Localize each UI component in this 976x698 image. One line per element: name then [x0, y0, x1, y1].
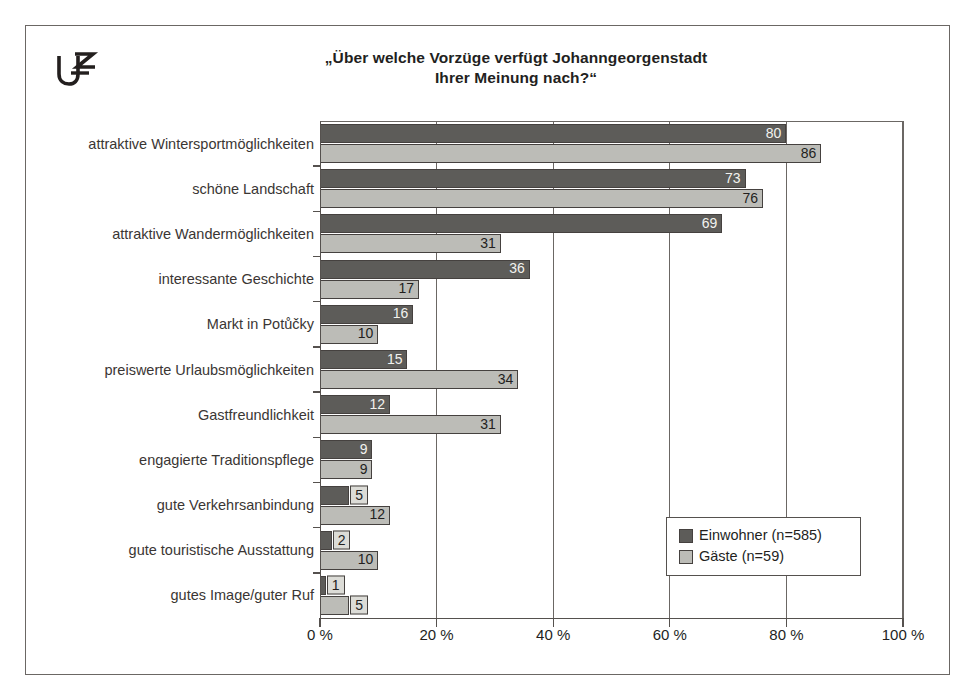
bar-value-label: 10: [358, 325, 379, 344]
bar-value-label: 69: [702, 214, 723, 233]
x-axis-line: [320, 618, 903, 619]
title-line-2: Ihrer Meinung nach?“: [196, 68, 836, 88]
category-label: gutes Image/guter Ruf: [44, 587, 314, 603]
y-tick-10: [313, 572, 320, 573]
bar-einwohner: [320, 214, 722, 233]
legend-label-einwohner: Einwohner (n=585): [699, 525, 822, 546]
bar-einwohner: [320, 124, 786, 143]
bar-value-label: 12: [369, 506, 390, 525]
bar-value-label: 80: [766, 124, 787, 143]
bar-einwohner: [320, 531, 332, 550]
bar-gaeste: [320, 189, 763, 208]
gridline-100: [902, 121, 903, 618]
x-tick-label-40: 40 %: [536, 626, 570, 643]
bar-value-label: 1: [327, 576, 345, 595]
bar-value-label: 16: [393, 305, 414, 324]
bar-gaeste: [320, 234, 501, 253]
bar-value-label: 9: [360, 440, 373, 459]
x-tick-label-0: 0 %: [307, 626, 333, 643]
category-label: attraktive Wintersportmöglichkeiten: [44, 136, 314, 152]
bar-gaeste: [320, 144, 821, 163]
y-tick-5: [313, 346, 320, 347]
x-tick-label-20: 20 %: [419, 626, 453, 643]
category-label: schöne Landschaft: [44, 181, 314, 197]
title-line-1: „Über welche Vorzüge verfügt Johanngeorg…: [196, 48, 836, 68]
y-tick-7: [313, 437, 320, 438]
chart-figure: „Über welche Vorzüge verfügt Johanngeorg…: [25, 25, 950, 675]
bar-value-label: 73: [725, 169, 746, 188]
uz-logo: [53, 44, 113, 92]
y-tick-4: [313, 301, 320, 302]
category-label: Markt in Potůčky: [44, 316, 314, 332]
legend-item-gaeste: Gäste (n=59): [679, 546, 850, 567]
bar-gaeste: [320, 596, 349, 615]
bar-value-label: 2: [333, 531, 351, 550]
bar-value-label: 76: [743, 189, 764, 208]
bar-value-label: 15: [387, 350, 408, 369]
legend-swatch-icon-einwohner: [679, 529, 693, 543]
x-tick-label-80: 80 %: [769, 626, 803, 643]
bar-value-label: 5: [350, 596, 368, 615]
bar-gaeste: [320, 370, 518, 389]
bar-value-label: 9: [360, 460, 373, 479]
x-tick-label-100: 100 %: [882, 626, 925, 643]
bar-value-label: 10: [358, 551, 379, 570]
bar-value-label: 34: [498, 370, 519, 389]
bar-value-label: 86: [801, 144, 822, 163]
category-label: preiswerte Urlaubsmöglichkeiten: [44, 362, 314, 378]
bar-gaeste: [320, 415, 501, 434]
bar-value-label: 31: [480, 415, 501, 434]
category-label: interessante Geschichte: [44, 271, 314, 287]
y-tick-8: [313, 482, 320, 483]
legend-label-gaeste: Gäste (n=59): [699, 546, 784, 567]
bar-einwohner: [320, 486, 349, 505]
x-tick-label-60: 60 %: [653, 626, 687, 643]
category-label: attraktive Wandermöglichkeiten: [44, 226, 314, 242]
bar-einwohner: [320, 576, 326, 595]
y-tick-1: [313, 165, 320, 166]
bar-value-label: 31: [480, 234, 501, 253]
bar-einwohner: [320, 260, 530, 279]
bar-value-label: 12: [369, 395, 390, 414]
category-label: engagierte Traditionspflege: [44, 452, 314, 468]
bar-value-label: 36: [509, 260, 530, 279]
legend-swatch-icon-gaeste: [679, 550, 693, 564]
bar-value-label: 5: [350, 486, 368, 505]
category-label: gute touristische Ausstattung: [44, 542, 314, 558]
category-label: Gastfreundlichkeit: [44, 407, 314, 423]
bar-einwohner: [320, 169, 746, 188]
page-title: „Über welche Vorzüge verfügt Johanngeorg…: [196, 48, 836, 88]
category-label: gute Verkehrsanbindung: [44, 497, 314, 513]
legend: Einwohner (n=585) Gäste (n=59): [666, 517, 861, 576]
category-axis-labels: attraktive Wintersportmöglichkeitenschön…: [36, 121, 314, 618]
y-tick-2: [313, 211, 320, 212]
x-axis-tick-labels: 0 %20 %40 %60 %80 %100 %: [320, 626, 903, 656]
y-tick-6: [313, 391, 320, 392]
y-tick-9: [313, 527, 320, 528]
y-tick-3: [313, 256, 320, 257]
legend-item-einwohner: Einwohner (n=585): [679, 525, 850, 546]
bar-value-label: 17: [399, 280, 420, 299]
